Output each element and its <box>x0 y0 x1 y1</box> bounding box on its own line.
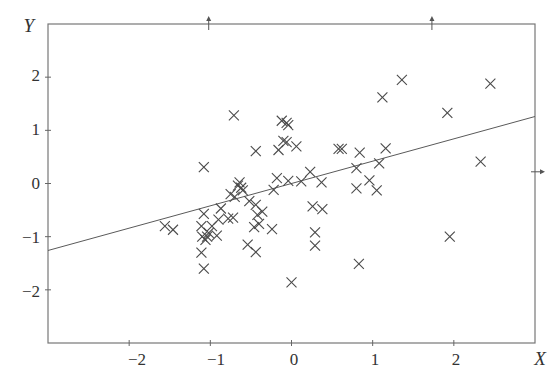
data-point-x-marker <box>317 204 327 214</box>
data-point-x-marker <box>199 264 209 274</box>
data-point-x-marker <box>282 137 292 147</box>
data-point-x-marker <box>291 141 301 151</box>
data-point-x-marker <box>287 277 297 287</box>
data-point-x-marker <box>278 136 288 146</box>
data-point-x-marker <box>216 203 226 213</box>
data-point-x-marker <box>485 79 495 89</box>
up-arrow-icon <box>206 16 211 30</box>
data-point-x-marker <box>252 210 262 220</box>
data-point-x-marker <box>249 222 259 232</box>
data-point-x-marker <box>442 108 452 118</box>
data-point-x-marker <box>251 146 261 156</box>
x-tick-label: 2 <box>452 350 461 369</box>
x-tick-label: 0 <box>290 350 299 369</box>
up-arrow-icon <box>429 16 434 30</box>
y-tick-label: 2 <box>32 66 41 85</box>
data-point-x-marker <box>168 225 178 235</box>
scatter-chart: 2 1 0 −1 −2 −2 −1 0 1 2 Y X <box>0 0 556 375</box>
data-point-x-marker <box>377 92 387 102</box>
y-tick-label: 0 <box>32 174 41 193</box>
data-point-x-marker <box>196 248 206 258</box>
x-tick-label: 1 <box>371 350 380 369</box>
data-point-x-marker <box>199 162 209 172</box>
x-axis-title: X <box>533 348 547 369</box>
x-tick-label: −2 <box>128 350 146 369</box>
data-point-x-marker <box>372 185 382 195</box>
data-point-x-marker <box>272 173 282 183</box>
data-point-x-marker <box>212 231 222 241</box>
data-points <box>160 75 495 288</box>
data-point-x-marker <box>310 241 320 251</box>
y-tick-label: −1 <box>22 228 40 247</box>
data-point-x-marker <box>257 207 267 217</box>
data-point-x-marker <box>238 185 248 195</box>
data-point-x-marker <box>351 163 361 173</box>
data-point-x-marker <box>254 219 264 229</box>
data-point-x-marker <box>355 148 365 158</box>
data-point-x-marker <box>267 224 277 234</box>
data-point-x-marker <box>351 183 361 193</box>
data-point-x-marker <box>476 157 486 167</box>
data-point-x-marker <box>354 259 364 269</box>
data-point-x-marker <box>160 221 170 231</box>
y-tick-label: −2 <box>22 282 40 301</box>
data-point-x-marker <box>199 209 209 219</box>
data-point-x-marker <box>202 232 212 242</box>
data-point-x-marker <box>364 175 374 185</box>
data-point-x-marker <box>251 247 261 257</box>
y-tick-label: 1 <box>32 120 41 139</box>
data-point-x-marker <box>230 192 240 202</box>
x-tick-label: −1 <box>207 350 225 369</box>
data-point-x-marker <box>305 167 315 177</box>
data-point-x-marker <box>445 232 455 242</box>
right-arrow-icon <box>531 169 545 174</box>
data-point-x-marker <box>397 75 407 85</box>
y-axis-title: Y <box>23 15 36 36</box>
data-point-x-marker <box>308 201 318 211</box>
data-point-x-marker <box>317 177 327 187</box>
data-point-x-marker <box>310 227 320 237</box>
data-point-x-marker <box>381 143 391 153</box>
data-point-x-marker <box>229 110 239 120</box>
